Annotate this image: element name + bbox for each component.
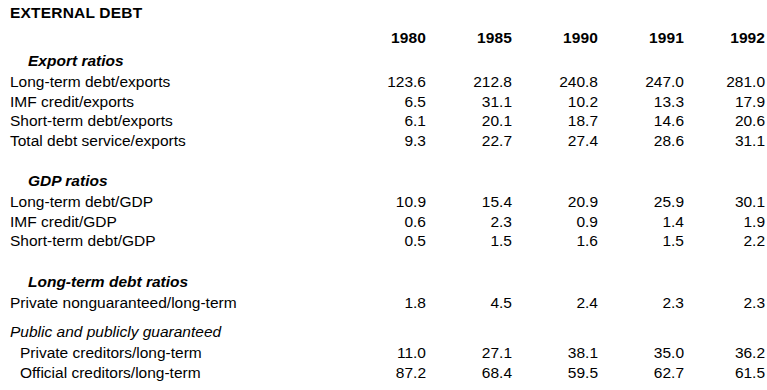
table-sheet: EXTERNAL DEBT19801985199019911992Export … xyxy=(0,0,767,390)
table-cell-1992: 2.2 xyxy=(689,231,767,251)
table-cell-1980: 0.6 xyxy=(345,212,431,232)
table-cell-1985: 22.7 xyxy=(431,131,517,151)
row-label: Official creditors/long-term xyxy=(0,363,345,383)
table-cell-1985: 20.1 xyxy=(431,111,517,131)
table-cell-1985: 31.1 xyxy=(431,92,517,112)
table-cell-1990: 1.6 xyxy=(517,231,603,251)
table-cell-1991: 25.9 xyxy=(603,192,689,212)
row-label: Long-term debt/GDP xyxy=(0,192,345,212)
column-header-year-1980: 1980 xyxy=(345,26,431,50)
table-row: Official creditors/long-term87.268.459.5… xyxy=(0,363,767,383)
table-row: Short-term debt/GDP0.51.51.61.52.2 xyxy=(0,231,767,251)
table-cell-1990: 18.7 xyxy=(517,111,603,131)
table-row: Private nonguaranteed/long-term1.84.52.4… xyxy=(0,293,767,313)
table-cell-1980: 6.5 xyxy=(345,92,431,112)
table-cell-1991: 13.3 xyxy=(603,92,689,112)
table-cell-1991: 2.3 xyxy=(603,293,689,313)
row-label: Total debt service/exports xyxy=(0,131,345,151)
row-label: Short-term debt/exports xyxy=(0,111,345,131)
row-label: Private creditors/long-term xyxy=(0,343,345,363)
table-cell-1992: 36.2 xyxy=(689,343,767,363)
table-row: IMF credit/exports6.531.110.213.317.9 xyxy=(0,92,767,112)
column-header-year-1985: 1985 xyxy=(431,26,517,50)
section-heading-row: Public and publicly guaranteed xyxy=(0,321,767,343)
row-label: IMF credit/exports xyxy=(0,92,345,112)
column-header-year-1990: 1990 xyxy=(517,26,603,50)
table-cell-1992: 20.6 xyxy=(689,111,767,131)
table-cell-1990: 10.2 xyxy=(517,92,603,112)
section-heading: Public and publicly guaranteed xyxy=(0,321,767,343)
spacer-cell xyxy=(0,150,767,170)
table-cell-1991: 247.0 xyxy=(603,72,689,92)
row-label: IMF credit/GDP xyxy=(0,212,345,232)
table-cell-1990: 0.9 xyxy=(517,212,603,232)
table-cell-1991: 35.0 xyxy=(603,343,689,363)
table-cell-1990: 240.8 xyxy=(517,72,603,92)
table-cell-1980: 10.9 xyxy=(345,192,431,212)
row-spacer xyxy=(0,251,767,271)
section-heading-row: GDP ratios xyxy=(0,170,767,192)
table-cell-1990: 59.5 xyxy=(517,363,603,383)
table-cell-1980: 6.1 xyxy=(345,111,431,131)
table-cell-1985: 27.1 xyxy=(431,343,517,363)
table-cell-1991: 1.5 xyxy=(603,231,689,251)
table-cell-1992: 61.5 xyxy=(689,363,767,383)
table-cell-1980: 9.3 xyxy=(345,131,431,151)
row-label: Long-term debt/exports xyxy=(0,72,345,92)
section-heading: GDP ratios xyxy=(0,170,767,192)
table-cell-1990: 20.9 xyxy=(517,192,603,212)
table-cell-1985: 68.4 xyxy=(431,363,517,383)
table-row: Short-term debt/exports6.120.118.714.620… xyxy=(0,111,767,131)
row-spacer xyxy=(0,150,767,170)
table-cell-1985: 15.4 xyxy=(431,192,517,212)
table-cell-1985: 2.3 xyxy=(431,212,517,232)
table-row: Long-term debt/exports123.6212.8240.8247… xyxy=(0,72,767,92)
table-cell-1980: 87.2 xyxy=(345,363,431,383)
table-cell-1991: 28.6 xyxy=(603,131,689,151)
spacer-cell xyxy=(0,312,767,321)
column-header-year-1991: 1991 xyxy=(603,26,689,50)
table-cell-1985: 212.8 xyxy=(431,72,517,92)
table-cell-1985: 4.5 xyxy=(431,293,517,313)
table-cell-1980: 0.5 xyxy=(345,231,431,251)
table-cell-1991: 14.6 xyxy=(603,111,689,131)
table-cell-1980: 1.8 xyxy=(345,293,431,313)
column-header-year-1992: 1992 xyxy=(689,26,767,50)
table-title-row: EXTERNAL DEBT xyxy=(0,0,767,26)
table-cell-1992: 17.9 xyxy=(689,92,767,112)
spacer-cell xyxy=(0,251,767,271)
table-cell-1992: 30.1 xyxy=(689,192,767,212)
section-heading-row: Long-term debt ratios xyxy=(0,271,767,293)
table-cell-1990: 2.4 xyxy=(517,293,603,313)
external-debt-table: EXTERNAL DEBT19801985199019911992Export … xyxy=(0,0,767,382)
table-row: IMF credit/GDP0.62.30.91.41.9 xyxy=(0,212,767,232)
table-cell-1990: 38.1 xyxy=(517,343,603,363)
page-title: EXTERNAL DEBT xyxy=(0,0,767,26)
row-label-header xyxy=(0,26,345,50)
table-row: Total debt service/exports9.322.727.428.… xyxy=(0,131,767,151)
column-header-row: 19801985199019911992 xyxy=(0,26,767,50)
table-row: Private creditors/long-term11.027.138.13… xyxy=(0,343,767,363)
table-cell-1991: 1.4 xyxy=(603,212,689,232)
section-heading: Export ratios xyxy=(0,50,767,72)
section-heading-row: Export ratios xyxy=(0,50,767,72)
row-label: Short-term debt/GDP xyxy=(0,231,345,251)
table-cell-1991: 62.7 xyxy=(603,363,689,383)
table-cell-1992: 1.9 xyxy=(689,212,767,232)
table-cell-1990: 27.4 xyxy=(517,131,603,151)
table-cell-1992: 281.0 xyxy=(689,72,767,92)
table-cell-1992: 31.1 xyxy=(689,131,767,151)
table-row: Long-term debt/GDP10.915.420.925.930.1 xyxy=(0,192,767,212)
section-heading: Long-term debt ratios xyxy=(0,271,767,293)
row-label: Private nonguaranteed/long-term xyxy=(0,293,345,313)
row-spacer xyxy=(0,312,767,321)
table-cell-1992: 2.3 xyxy=(689,293,767,313)
table-cell-1980: 11.0 xyxy=(345,343,431,363)
table-cell-1980: 123.6 xyxy=(345,72,431,92)
table-cell-1985: 1.5 xyxy=(431,231,517,251)
